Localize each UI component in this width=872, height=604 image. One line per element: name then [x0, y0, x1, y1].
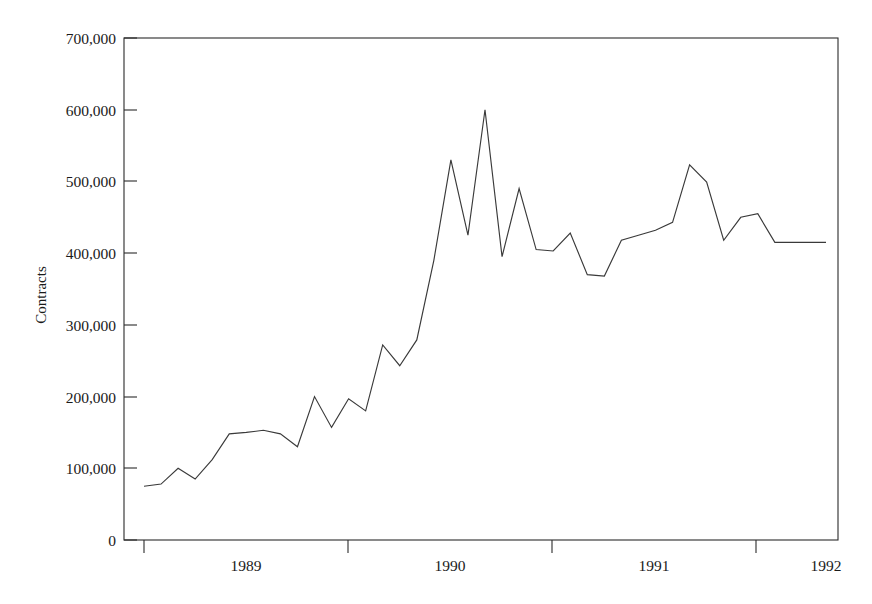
chart-container: 700,000 600,000 500,000 400,000 300,000 …	[0, 0, 872, 604]
plot-frame	[124, 38, 838, 540]
x-tick-label-1989: 1989	[231, 557, 262, 574]
x-axis-tick-labels: 1989 1990 1991 1992	[231, 557, 842, 574]
y-axis-tick-labels: 700,000 600,000 500,000 400,000 300,000 …	[66, 30, 117, 549]
y-axis-title: Contracts	[33, 266, 49, 324]
y-tick-label-100000: 100,000	[66, 460, 117, 477]
y-axis-ticks	[124, 38, 137, 540]
x-tick-label-1992: 1992	[811, 557, 842, 574]
x-axis-ticks	[144, 540, 756, 553]
y-tick-label-500000: 500,000	[66, 173, 117, 190]
y-tick-label-0: 0	[108, 532, 116, 549]
y-tick-label-700000: 700,000	[66, 30, 117, 47]
x-tick-label-1990: 1990	[435, 557, 466, 574]
line-chart: 700,000 600,000 500,000 400,000 300,000 …	[0, 0, 872, 604]
x-tick-label-1991: 1991	[639, 557, 670, 574]
y-tick-label-300000: 300,000	[66, 317, 117, 334]
y-tick-label-600000: 600,000	[66, 102, 117, 119]
y-tick-label-400000: 400,000	[66, 245, 117, 262]
data-series-contracts	[144, 110, 826, 487]
y-tick-label-200000: 200,000	[66, 389, 117, 406]
